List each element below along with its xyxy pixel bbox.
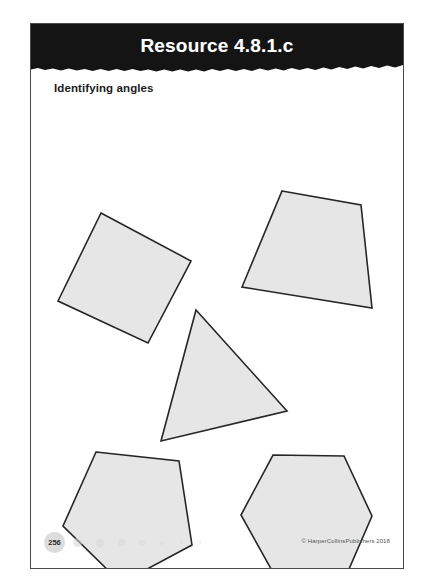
shape-square [58,213,191,343]
shape-triangle [161,310,287,441]
shapes-canvas [31,24,404,569]
footer-dot-2 [96,539,104,547]
footer-dot-6 [180,541,183,544]
copyright-notice: © HarperCollinsPublishers 2018 [302,538,390,544]
footer-dots [73,532,219,553]
shape-quadrilateral [242,191,372,308]
footer-dot-5 [160,541,164,545]
footer-dot-7 [199,541,202,544]
shapes-svg [31,24,404,569]
footer-dot-4 [139,540,145,546]
worksheet-page: Resource 4.8.1.c Identifying angles 256 … [30,23,404,569]
footer: 256 © HarperCollinsPublishers 2018 [31,532,403,554]
footer-dot-1 [73,538,82,547]
page-number-badge: 256 [44,532,65,553]
footer-dot-3 [118,539,125,546]
